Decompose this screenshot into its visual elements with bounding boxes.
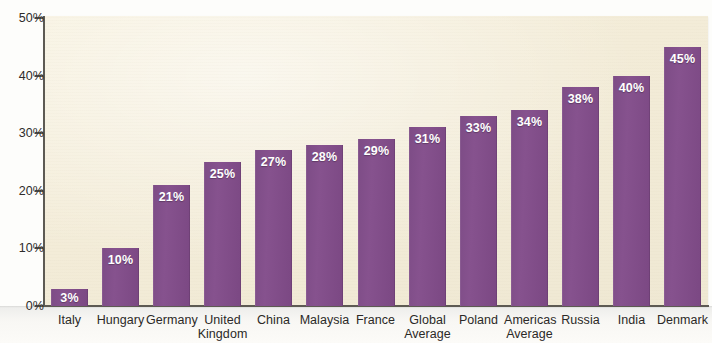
x-axis-category-label-line: India	[618, 313, 645, 327]
bar-value-label: 29%	[358, 145, 395, 158]
bar-value-label: 10%	[102, 254, 139, 267]
x-axis-category-label: France	[350, 313, 401, 327]
bar-group[interactable]: 38%	[562, 87, 599, 306]
bar-value-label: 21%	[153, 191, 190, 204]
bar-group[interactable]: 34%	[511, 110, 548, 306]
bar[interactable]	[511, 110, 548, 306]
x-axis-category-label-line: Poland	[459, 313, 498, 327]
bar[interactable]	[613, 76, 650, 306]
bar-value-label: 38%	[562, 93, 599, 106]
bar-group[interactable]: 27%	[255, 150, 292, 306]
x-axis-category-label-line: Average	[504, 327, 555, 341]
bar[interactable]	[664, 47, 701, 306]
bar-value-label: 40%	[613, 82, 650, 95]
bar[interactable]	[255, 150, 292, 306]
x-axis-category-label-line: United	[204, 313, 240, 327]
x-axis-category-label-line: Average	[402, 327, 453, 341]
x-axis-category-label: Russia	[555, 313, 606, 327]
x-axis-category-label-line: Germany	[146, 313, 198, 327]
bar-value-label: 25%	[204, 168, 241, 181]
bar-group[interactable]: 40%	[613, 76, 650, 306]
bar[interactable]	[409, 127, 446, 306]
bar-value-label: 45%	[664, 53, 701, 66]
x-axis-category-label: AmericasAverage	[504, 313, 555, 341]
bar[interactable]	[562, 87, 599, 306]
bar-group[interactable]: 31%	[409, 127, 446, 306]
bar-group[interactable]: 45%	[664, 47, 701, 306]
bar-group[interactable]: 29%	[358, 139, 395, 306]
bar-value-label: 3%	[51, 292, 88, 305]
x-axis-category-label-line: Italy	[58, 313, 81, 327]
x-axis-category-label-line: Malaysia	[300, 313, 350, 327]
x-axis-category-label: China	[248, 313, 299, 327]
x-axis-category-label-line: Russia	[561, 313, 600, 327]
x-axis-category-label: Italy	[44, 313, 95, 327]
x-axis-category-label-line: Denmark	[657, 313, 708, 327]
bar-value-label: 31%	[409, 133, 446, 146]
x-axis-category-label-line: Kingdom	[197, 327, 248, 341]
x-axis-category-label-line: Americas	[504, 313, 557, 327]
x-axis-category-label-line: France	[356, 313, 395, 327]
bar[interactable]	[460, 116, 497, 306]
bar-value-label: 33%	[460, 122, 497, 135]
x-axis-category-label: GlobalAverage	[402, 313, 453, 341]
x-axis-category-label-line: Hungary	[97, 313, 145, 327]
x-axis-category-label: Poland	[453, 313, 504, 327]
x-axis-category-label-line: China	[257, 313, 290, 327]
bar[interactable]	[204, 162, 241, 306]
x-axis-category-label: Malaysia	[299, 313, 350, 327]
x-axis-category-label-line: Global	[409, 313, 445, 327]
x-axis-category-label: Hungary	[95, 313, 146, 327]
bar-group[interactable]: 3%	[51, 289, 88, 306]
x-axis-category-label: UnitedKingdom	[197, 313, 248, 341]
x-axis-category-label: India	[606, 313, 657, 327]
bar-value-label: 34%	[511, 116, 548, 129]
bar[interactable]	[306, 145, 343, 306]
x-axis-category-label: Germany	[146, 313, 197, 327]
bar-group[interactable]: 10%	[102, 248, 139, 306]
bar-value-label: 27%	[255, 156, 292, 169]
bar-group[interactable]: 33%	[460, 116, 497, 306]
bar-value-label: 28%	[306, 151, 343, 164]
bar-chart: 0%10%20%30%40%50% 3%Italy10%Hungary21%Ge…	[0, 0, 712, 343]
bar[interactable]	[358, 139, 395, 306]
bar-group[interactable]: 25%	[204, 162, 241, 306]
x-axis-category-label: Denmark	[657, 313, 708, 327]
bar-group[interactable]: 28%	[306, 145, 343, 306]
bar-group[interactable]: 21%	[153, 185, 190, 306]
bars-layer: 3%Italy10%Hungary21%Germany25%UnitedKing…	[0, 0, 712, 343]
